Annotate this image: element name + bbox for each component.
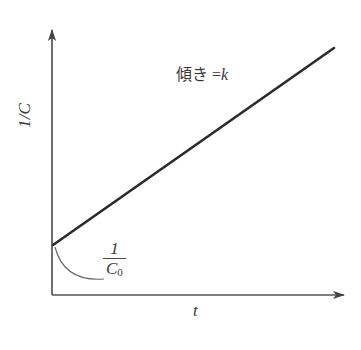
- plot-canvas: [0, 0, 361, 350]
- slope-annotation: 傾き=k: [176, 67, 228, 83]
- slope-annotation-japanese: 傾き: [176, 65, 208, 84]
- intercept-denominator: C0: [103, 259, 126, 278]
- intercept-leader-arc: [55, 247, 104, 279]
- slope-annotation-variable: k: [221, 66, 228, 83]
- intercept-denominator-base: C: [106, 259, 117, 278]
- intercept-denominator-subscript: 0: [117, 266, 123, 278]
- intercept-annotation: 1 C0: [103, 240, 126, 278]
- slope-annotation-equals: =: [208, 66, 221, 83]
- x-axis-label: t: [193, 302, 198, 319]
- y-axis-label: 1/C: [16, 103, 33, 128]
- graph-figure: 1/C t 傾き=k 1 C0: [0, 0, 361, 350]
- intercept-numerator: 1: [103, 240, 126, 258]
